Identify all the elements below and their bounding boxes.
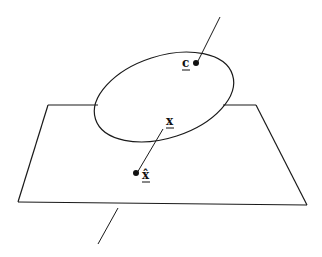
label-x: x [166,114,174,128]
label-c: c [182,56,189,70]
plane-right-edge [256,105,307,205]
projection-diagram: c x x̂ [0,0,322,257]
label-x-hat: x̂ [142,168,150,182]
plane-left-edge [18,105,48,202]
plane-bottom-edge [18,202,307,205]
normal-line-top [197,17,220,63]
projection-line [137,129,163,173]
normal-line-bottom [98,208,118,244]
point-x-hat-dot [133,170,139,176]
plane [18,105,307,205]
ellipse [83,36,245,158]
point-c-dot [193,60,199,66]
